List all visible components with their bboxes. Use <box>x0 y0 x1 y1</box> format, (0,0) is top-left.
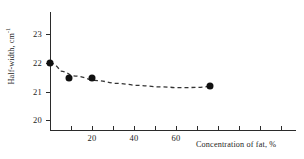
plot-area <box>0 0 304 159</box>
data-point <box>89 75 96 82</box>
data-point <box>47 60 54 67</box>
data-point <box>65 74 72 81</box>
chart-figure: 23 22 21 20 20 40 60 Half-width, cm-1 Co… <box>0 0 304 159</box>
trend-curve <box>0 0 304 159</box>
data-point <box>206 83 213 90</box>
